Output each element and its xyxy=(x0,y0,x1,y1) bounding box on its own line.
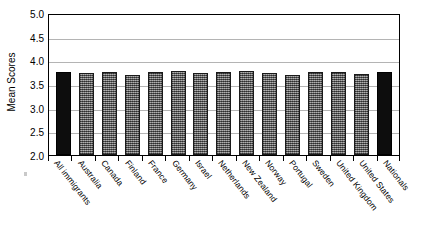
bar-norway xyxy=(262,73,277,155)
bar-united-states xyxy=(354,74,369,155)
x-axis-category-labels: All immigrantsAustraliaCanadaFinlandFran… xyxy=(48,158,400,233)
x-axis-label-finland: Finland xyxy=(123,158,148,186)
bar-germany xyxy=(171,71,186,155)
bar-chart-figure: Mean Scores 5.04.54.03.53.02.52.0 All im… xyxy=(0,0,445,233)
bar-netherlands xyxy=(216,72,231,155)
bar-nationals xyxy=(377,72,392,155)
bar-finland xyxy=(125,75,140,155)
bar-new-zealand xyxy=(239,71,254,155)
bar-sweden xyxy=(308,72,323,155)
bar-portugal xyxy=(285,75,300,155)
bar-series xyxy=(49,15,399,155)
plot-area xyxy=(48,14,400,156)
y-axis-tick-label: 2.5 xyxy=(30,127,44,138)
y-axis-tick-label: 3.0 xyxy=(30,103,44,114)
y-axis-tick-label: 5.0 xyxy=(30,9,44,20)
y-axis-tick-label: 3.5 xyxy=(30,80,44,91)
y-axis-tick-labels: 5.04.54.03.53.02.52.0 xyxy=(18,9,46,157)
scan-artifact-speck xyxy=(24,172,27,176)
y-axis-tick-label: 4.5 xyxy=(30,32,44,43)
y-axis-tick-label: 4.0 xyxy=(30,56,44,67)
x-axis-label-israel: Israel xyxy=(193,158,214,181)
bar-canada xyxy=(102,72,117,155)
x-axis-label-france: France xyxy=(146,158,170,185)
bar-israel xyxy=(193,73,208,155)
bar-france xyxy=(148,72,163,155)
bar-all-immigrants xyxy=(56,72,71,155)
x-axis-label-sweden: Sweden xyxy=(310,158,337,189)
y-axis-title-text: Mean Scores xyxy=(6,53,17,112)
y-axis-tick-label: 2.0 xyxy=(30,151,44,162)
bar-united-kingdom xyxy=(331,72,346,155)
y-axis-title: Mean Scores xyxy=(4,34,18,130)
bar-australia xyxy=(79,73,94,155)
